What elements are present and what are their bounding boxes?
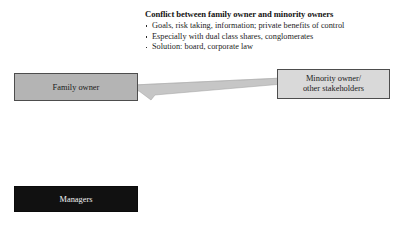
list-item-label: Goals, risk taking, information; private…	[152, 21, 344, 30]
bullet-square-icon	[146, 36, 148, 38]
bullet-list: Goals, risk taking, information; private…	[145, 21, 400, 53]
node-minority-owner-label-line2: other stakeholders	[303, 84, 364, 94]
list-item-label: Solution: board, corporate law	[152, 42, 253, 51]
list-item: Especially with dual class shares, congl…	[145, 32, 400, 43]
conflict-text-block: Conflict between family owner and minori…	[145, 9, 400, 53]
node-minority-owner-label-line1: Minority owner/	[303, 74, 364, 84]
diagram-canvas: Conflict between family owner and minori…	[0, 0, 405, 230]
node-family-owner[interactable]: Family owner	[14, 73, 138, 101]
page-title: Conflict between family owner and minori…	[145, 9, 400, 20]
list-item: Goals, risk taking, information; private…	[145, 21, 400, 32]
node-managers[interactable]: Managers	[14, 186, 138, 212]
node-minority-owner[interactable]: Minority owner/ other stakeholders	[277, 69, 390, 99]
bullet-square-icon	[146, 47, 148, 49]
double-arrow-connector	[133, 78, 283, 104]
node-minority-owner-label: Minority owner/ other stakeholders	[303, 74, 364, 95]
list-item: Solution: board, corporate law	[145, 42, 400, 53]
node-managers-label: Managers	[59, 195, 92, 204]
list-item-label: Especially with dual class shares, congl…	[152, 32, 313, 41]
node-family-owner-label: Family owner	[53, 83, 100, 92]
bullet-square-icon	[146, 25, 148, 27]
